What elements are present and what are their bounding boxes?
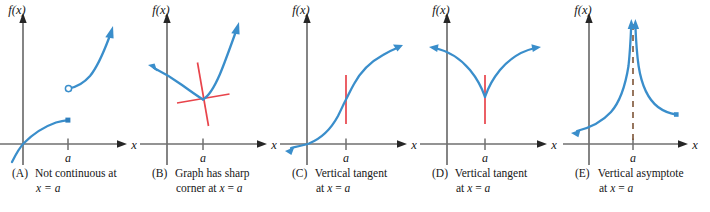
- panel-b-caption: (B) Graph has sharp corner at x = a: [140, 166, 282, 195]
- panel-a-plot: f(x) x a: [0, 0, 142, 165]
- y-axis-label-e: f(x): [574, 3, 591, 17]
- tick-label-b: a: [200, 151, 206, 165]
- panel-e-plot: f(x) x a: [563, 0, 705, 165]
- panel-b-caption-line1: Graph has sharp: [175, 167, 250, 179]
- panel-b-tag: (B): [152, 166, 172, 181]
- curve-arrow-right-d: [531, 44, 541, 52]
- panel-a-caption: (A) Not continuous at x = a: [0, 166, 142, 195]
- panel-a-caption-line1: Not continuous at: [35, 167, 117, 179]
- x-axis-a: [0, 140, 127, 147]
- curve-right-branch-e: [635, 26, 676, 115]
- curve-right-half-d: [485, 48, 535, 97]
- curve-arrow-right-b: [231, 22, 239, 35]
- panel-b-plot: f(x) x a: [140, 0, 282, 165]
- panel-d-caption-line1: Vertical tangent: [455, 167, 527, 179]
- panel-a: f(x) x a (A) Not continuous at x = a: [0, 0, 142, 212]
- curve-right-branch-b: [203, 34, 235, 100]
- panel-d: f(x) x a (D) Vertical tangent at x = a: [420, 0, 562, 212]
- panel-e-tag: (E): [575, 166, 595, 181]
- panel-c-caption: (C) Vertical tangent at x = a: [280, 166, 422, 195]
- open-endpoint-a: [65, 86, 71, 92]
- x-axis-label-e: x: [691, 138, 698, 152]
- tick-label-d: a: [482, 151, 488, 165]
- curve-endpoint-e: [674, 112, 679, 117]
- curve-left-branch-b: [154, 68, 203, 100]
- panel-e: f(x) x a (E) Vertical asymptote at x = a: [563, 0, 705, 212]
- curve-arrow-left-b: [148, 63, 157, 71]
- y-axis-label-c: f(x): [292, 3, 309, 17]
- panel-d-caption-line2: at x = a: [420, 181, 562, 196]
- y-axis-label-b: f(x): [152, 3, 169, 17]
- panel-c-plot: f(x) x a: [280, 0, 422, 165]
- x-axis-label-d: x: [550, 138, 557, 152]
- panel-e-caption-line1: Vertical asymptote: [598, 167, 684, 179]
- y-axis-e: [585, 13, 592, 165]
- x-axis-label-c: x: [410, 138, 417, 152]
- panel-a-tag: (A): [12, 166, 32, 181]
- curve-arrow-a: [105, 26, 113, 39]
- panel-e-caption-line2: at x = a: [563, 181, 705, 196]
- y-axis-label-d: f(x): [432, 3, 449, 17]
- panel-e-caption: (E) Vertical asymptote at x = a: [563, 166, 705, 195]
- x-axis-d: [420, 140, 547, 147]
- panel-c: f(x) x a (C) Vertical tangent at x = a: [280, 0, 422, 212]
- curve-left-branch-e: [577, 26, 631, 131]
- tick-label-a: a: [65, 151, 71, 165]
- panel-a-caption-line2: x = a: [0, 181, 142, 196]
- x-axis-e: [563, 140, 688, 147]
- x-axis-label-a: x: [130, 138, 137, 152]
- tick-label-c: a: [343, 151, 349, 165]
- tangent-line-steep-b: [198, 63, 209, 127]
- curve-arrow-left-e: [571, 129, 581, 137]
- x-axis-label-b: x: [270, 138, 277, 152]
- panel-b: f(x) x a (B) Graph has sharp corner at x…: [140, 0, 282, 212]
- y-axis-b: [163, 13, 170, 165]
- panel-c-tag: (C): [292, 166, 312, 181]
- y-axis-d: [443, 13, 450, 165]
- y-axis-label-a: f(x): [8, 3, 25, 17]
- panel-c-caption-line2: at x = a: [280, 181, 422, 196]
- curve-arrow-left-d: [429, 44, 439, 52]
- panel-d-tag: (D): [432, 166, 452, 181]
- panel-d-plot: f(x) x a: [420, 0, 562, 165]
- curve-arrow-left-c: [285, 147, 294, 155]
- curve-lower-branch: [12, 120, 68, 162]
- figure-root: f(x) x a (A) Not continuous at x = a: [0, 0, 710, 212]
- panel-d-caption: (D) Vertical tangent at x = a: [420, 166, 562, 195]
- curve-upper-branch: [69, 38, 109, 89]
- panel-c-caption-line1: Vertical tangent: [315, 167, 387, 179]
- curve-left-half-d: [435, 48, 485, 97]
- closed-endpoint-a: [65, 118, 70, 123]
- tick-label-e: a: [630, 151, 636, 165]
- panel-b-caption-line2: corner at x = a: [140, 181, 282, 196]
